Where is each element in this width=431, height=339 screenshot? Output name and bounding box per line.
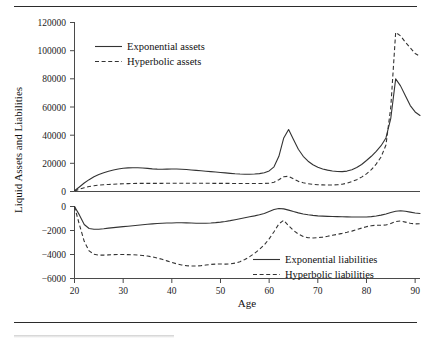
assets-y-ticks xyxy=(70,23,75,192)
x-tick-label-40: 40 xyxy=(167,286,177,296)
y-axis-title: Liquid Assets and Liabilities xyxy=(12,87,24,213)
liabilities-ytick-minus6000: −6000 xyxy=(42,274,67,284)
liabilities-y-ticks xyxy=(70,207,75,279)
chart-svg: 120000 100000 80000 60000 40000 20000 0 … xyxy=(0,10,431,320)
assets-y-tick-labels: 120000 100000 80000 60000 40000 20000 0 xyxy=(38,18,67,197)
chart-plot-area: 120000 100000 80000 60000 40000 20000 0 … xyxy=(0,10,431,320)
assets-ytick-0: 0 xyxy=(61,187,66,197)
x-tick-label-20: 20 xyxy=(70,286,80,296)
figure-top-rule xyxy=(14,6,417,7)
figure-caption-cutoff xyxy=(14,335,174,338)
assets-ytick-120000: 120000 xyxy=(38,18,67,28)
x-tick-label-60: 60 xyxy=(264,286,274,296)
x-axis-tick-labels: 2030405060708090 xyxy=(70,286,420,296)
liabilities-ytick-minus4000: −4000 xyxy=(42,250,67,260)
x-tick-label-30: 30 xyxy=(118,286,128,296)
series-line-exponential-assets xyxy=(75,79,421,191)
assets-ytick-80000: 80000 xyxy=(42,74,66,84)
assets-ytick-60000: 60000 xyxy=(42,103,66,113)
legend-label-exponential-liabilities: Exponential liabilities xyxy=(285,254,377,265)
figure-container: 120000 100000 80000 60000 40000 20000 0 … xyxy=(0,0,431,339)
liabilities-y-tick-labels: 0 −2000 −4000 −6000 xyxy=(42,202,67,284)
legend-label-hyperbolic-assets: Hyperbolic assets xyxy=(127,56,201,67)
x-tick-label-50: 50 xyxy=(216,286,226,296)
legend-label-hyperbolic-liabilities: Hyperbolic liabilities xyxy=(285,269,374,280)
assets-legend: Exponential assets Hyperbolic assets xyxy=(95,41,205,67)
liabilities-ytick-0: 0 xyxy=(61,202,66,212)
figure-bottom-rule xyxy=(14,322,417,323)
x-tick-label-70: 70 xyxy=(313,286,323,296)
assets-ytick-20000: 20000 xyxy=(42,159,66,169)
liabilities-ytick-minus2000: −2000 xyxy=(42,226,67,236)
x-tick-label-80: 80 xyxy=(362,286,372,296)
liabilities-legend: Exponential liabilities Hyperbolic liabi… xyxy=(253,254,377,280)
x-tick-label-90: 90 xyxy=(410,286,420,296)
liabilities-panel: 0 −2000 −4000 −6000 Exponential liabilit… xyxy=(42,202,420,284)
x-axis-title: Age xyxy=(238,297,256,309)
assets-panel: 120000 100000 80000 60000 40000 20000 0 … xyxy=(38,18,421,197)
legend-label-exponential-assets: Exponential assets xyxy=(127,41,205,52)
assets-ytick-100000: 100000 xyxy=(38,46,67,56)
assets-ytick-40000: 40000 xyxy=(42,131,66,141)
series-line-exponential-liabilities xyxy=(75,207,421,230)
